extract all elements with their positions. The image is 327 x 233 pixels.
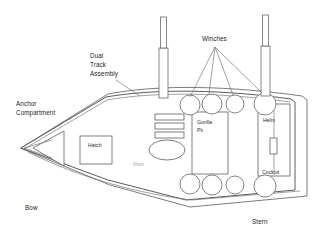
label-cockpit: Cockpit [262, 169, 280, 175]
track-bar-1 [155, 114, 184, 120]
aft-mast-group [261, 15, 270, 96]
track-bar-3 [155, 132, 184, 138]
deck-plan-diagram: Winches Dual Track Assembly Anchor Compa… [0, 0, 327, 233]
winch-lower-1 [180, 174, 200, 194]
winch-leader-lines [190, 47, 262, 97]
label-anchor-compartment-line1: Anchor [16, 100, 37, 107]
winch-lower-3 [226, 176, 244, 194]
label-dual-track-line3: Assembly [90, 70, 119, 78]
label-faint-unreadable: Mast [133, 161, 144, 167]
label-anchor-compartment-line2: Compartment [16, 109, 55, 117]
aft-mast-lower [261, 46, 270, 96]
label-gorilla-pit-line2: Pit [197, 127, 204, 133]
label-hatch: Hatch [88, 142, 102, 148]
winch-lower-4 [254, 175, 276, 197]
label-helm: Helm [263, 117, 275, 123]
winch-leader-1 [190, 47, 215, 97]
deck-ellipse-fitting [149, 140, 185, 160]
forward-mast-upper [161, 17, 167, 48]
deck-plan-svg: Winches Dual Track Assembly Anchor Compa… [0, 0, 327, 233]
winch-lower-2 [202, 175, 222, 195]
winch-leader-2 [209, 47, 215, 94]
label-bow: Bow [25, 204, 38, 211]
cockpit-center-fitting [270, 138, 277, 154]
forward-mast-lower [159, 48, 168, 98]
winch-upper-3 [226, 95, 244, 113]
label-winches: Winches [202, 35, 227, 42]
winch-upper-1 [180, 95, 200, 115]
label-dual-track-line1: Dual [90, 52, 103, 59]
winch-leader-4 [215, 47, 262, 93]
hatch-rect [80, 136, 112, 164]
label-stern: Stern [252, 218, 268, 225]
label-gorilla-pit-line1: Gorilla [197, 119, 212, 125]
winch-upper-2 [202, 94, 222, 114]
aft-mast-upper [263, 15, 269, 46]
label-dual-track-line2: Track [90, 61, 107, 68]
hatch-group [80, 136, 112, 164]
forward-mast-group [159, 17, 168, 98]
track-bar-2 [155, 123, 184, 129]
